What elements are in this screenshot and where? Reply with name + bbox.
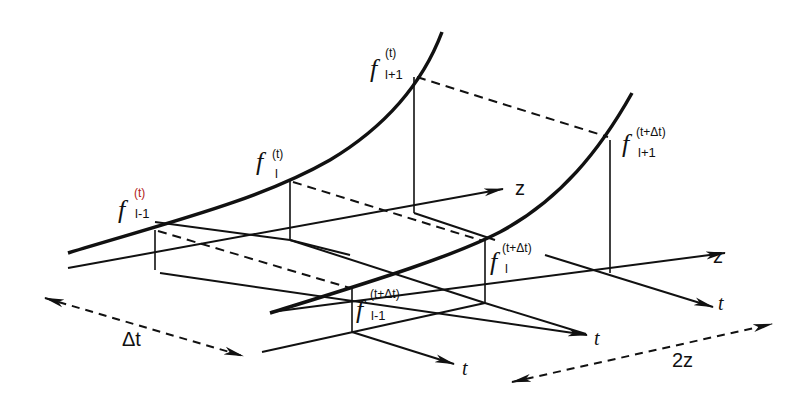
function-curves <box>68 32 632 313</box>
subscript: l <box>275 166 278 181</box>
superscript: (t) <box>134 186 145 200</box>
t-axis-line-l-to-arrow <box>485 303 586 334</box>
superscript: (t+Δt) <box>502 241 532 255</box>
label-f-tdt-l+1: f (t+Δt) l+1 <box>622 125 666 160</box>
label-f-t-l-1: f (t) l-1 <box>118 186 149 224</box>
t-axis-line-lowest <box>352 332 454 364</box>
superscript: (t+Δt) <box>636 125 666 139</box>
subscript: l <box>505 261 508 276</box>
t-axis-line-l-plus1-mid <box>414 213 495 240</box>
axis-label-t-bottom: t <box>462 357 468 379</box>
dashed-time-links <box>158 77 608 288</box>
z-axis-line-front <box>271 253 725 312</box>
subscript: l-1 <box>371 308 385 323</box>
two-z-dimension-arrow[interactable] <box>512 324 772 382</box>
t-axis-line-l-1 <box>160 273 587 335</box>
axis-label-z-back: z <box>515 177 525 199</box>
subscript: l+1 <box>638 145 656 160</box>
label-f-tdt-l: f (t+Δt) l <box>490 241 532 276</box>
f-symbol: f <box>256 147 267 176</box>
f-symbol: f <box>118 195 129 224</box>
f-symbol: f <box>622 129 633 158</box>
axis-label-t-middle: t <box>594 327 600 349</box>
z-axis-line-back <box>68 189 503 268</box>
axis-label-z-front: z <box>713 245 723 267</box>
superscript: (t+Δt) <box>370 287 400 301</box>
dash-link-l <box>293 182 483 241</box>
f-symbol: f <box>490 247 501 276</box>
superscript: (t) <box>385 46 396 60</box>
axis-label-t-right: t <box>718 292 724 314</box>
subscript: l-1 <box>135 206 149 221</box>
finite-difference-grid-diagram: f (t) l-1 f (t) l f (t) l+1 f (t+Δt) l-1… <box>0 0 811 401</box>
superscript: (t) <box>272 147 283 161</box>
dash-link-l+1 <box>417 77 608 137</box>
t-axis-line-right <box>545 255 713 307</box>
delta-t-dimension-arrow[interactable] <box>45 298 243 356</box>
f-symbol: f <box>370 54 381 83</box>
two-z-label: 2z <box>672 349 693 371</box>
label-f-t-l: f (t) l <box>256 147 283 181</box>
dash-link-l-1 <box>158 231 350 288</box>
delta-t-label: Δt <box>122 328 141 350</box>
subscript: l+1 <box>385 67 403 82</box>
dimension-arrows <box>45 298 772 382</box>
label-f-t-l+1: f (t) l+1 <box>370 46 403 83</box>
